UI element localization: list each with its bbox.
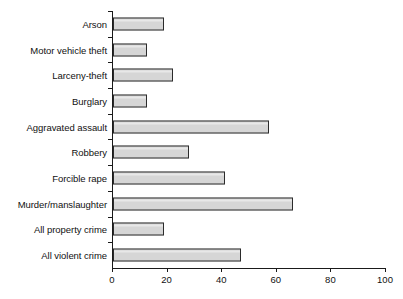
category-axis-tick	[108, 88, 112, 89]
bar-chart: ArsonMotor vehicle theftLarceny-theftBur…	[0, 0, 403, 299]
category-axis-tick	[108, 37, 112, 38]
bar	[113, 146, 189, 159]
bar-row: All property crime	[0, 217, 403, 243]
x-axis-ticks: 020406080100	[0, 268, 403, 296]
x-tick-mark	[221, 268, 222, 272]
x-tick-label: 40	[216, 274, 227, 285]
category-axis-tick	[108, 242, 112, 243]
bar	[113, 249, 241, 262]
bar-row: Larceny-theft	[0, 62, 403, 88]
category-label: Burglary	[72, 95, 107, 106]
bar-row: Arson	[0, 11, 403, 37]
category-label: Larceny-theft	[52, 70, 107, 81]
category-axis-tick	[108, 217, 112, 218]
bar	[113, 223, 164, 236]
category-label: Arson	[82, 18, 107, 29]
category-label: Robbery	[71, 147, 107, 158]
x-tick-label: 20	[161, 274, 172, 285]
category-label: Murder/manslaughter	[18, 198, 107, 209]
category-axis-tick	[108, 114, 112, 115]
bar	[113, 197, 293, 210]
category-label: All violent crime	[41, 250, 107, 261]
bar	[113, 43, 147, 56]
bar-row: All violent crime	[0, 242, 403, 268]
bar-row: Aggravated assault	[0, 114, 403, 140]
x-tick-label: 60	[271, 274, 282, 285]
bar-row: Robbery	[0, 139, 403, 165]
bar	[113, 120, 269, 133]
category-axis-tick	[108, 62, 112, 63]
bar-row: Burglary	[0, 88, 403, 114]
bar	[113, 17, 164, 30]
x-tick-label: 80	[325, 274, 336, 285]
x-tick-mark	[276, 268, 277, 272]
category-axis-tick	[108, 165, 112, 166]
bar-row: Motor vehicle theft	[0, 37, 403, 63]
bar	[113, 171, 225, 184]
category-label: Forcible rape	[52, 172, 107, 183]
category-axis-tick	[108, 139, 112, 140]
x-tick-label: 0	[109, 274, 114, 285]
bar-row: Murder/manslaughter	[0, 191, 403, 217]
category-axis-tick	[108, 191, 112, 192]
bar	[113, 94, 147, 107]
bar-rows: ArsonMotor vehicle theftLarceny-theftBur…	[0, 11, 403, 268]
x-tick-mark	[330, 268, 331, 272]
category-axis-tick	[108, 11, 112, 12]
category-label: All property crime	[34, 224, 107, 235]
x-tick-mark	[112, 268, 113, 272]
category-label: Motor vehicle theft	[30, 44, 107, 55]
x-tick-mark	[385, 268, 386, 272]
bar-row: Forcible rape	[0, 165, 403, 191]
bar	[113, 69, 173, 82]
category-label: Aggravated assault	[27, 121, 107, 132]
x-tick-mark	[167, 268, 168, 272]
x-tick-label: 100	[377, 274, 393, 285]
